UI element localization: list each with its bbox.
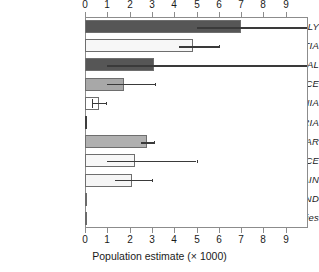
tick-label-top-1: 1	[100, 0, 114, 10]
tick-bottom-8	[263, 228, 264, 233]
tick-bottom-7	[241, 228, 242, 233]
x-axis-title: Population estimate (× 1000)	[0, 250, 319, 262]
error-bar-italy	[197, 27, 308, 29]
error-bar-france	[107, 161, 196, 162]
tick-top-0	[85, 12, 86, 17]
error-bar-albania	[92, 103, 106, 104]
tick-label-top-5: 5	[190, 0, 204, 10]
tick-bottom-5	[197, 228, 198, 233]
horizontal-bar-chart: ITALYCROATIAPORTUGALGREECEALBANIABULGARI…	[0, 0, 319, 272]
tick-label-bottom-0: 0	[78, 234, 92, 245]
tick-label-top-4: 4	[167, 0, 181, 10]
tick-top-4	[174, 12, 175, 17]
tick-label-top-3: 3	[145, 0, 159, 10]
tick-top-8	[263, 12, 264, 17]
tick-bottom-6	[219, 228, 220, 233]
error-cap-low-albania	[92, 99, 93, 108]
error-cap-high-croatia	[219, 45, 220, 48]
tick-label-bottom-3: 3	[145, 234, 159, 245]
tick-label-bottom-1: 1	[100, 234, 114, 245]
tick-top-2	[130, 12, 131, 17]
tick-label-bottom-7: 7	[234, 234, 248, 245]
tick-label-top-2: 2	[123, 0, 137, 10]
tick-top-5	[197, 12, 198, 17]
bar-bulgaria	[85, 116, 87, 129]
tick-bottom-3	[152, 228, 153, 233]
tick-bottom-2	[130, 228, 131, 233]
tick-label-top-9: 9	[279, 0, 293, 10]
error-cap-high-albania	[106, 102, 107, 105]
error-bar-portugal	[107, 65, 307, 67]
tick-top-6	[219, 12, 220, 17]
error-bar-greece	[107, 84, 155, 85]
tick-label-bottom-2: 2	[123, 234, 137, 245]
tick-label-bottom-4: 4	[167, 234, 181, 245]
tick-label-bottom-8: 8	[256, 234, 270, 245]
error-cap-high-spain	[152, 179, 153, 182]
error-cap-high-greece	[155, 83, 156, 86]
tick-label-top-7: 7	[234, 0, 248, 10]
tick-label-bottom-5: 5	[190, 234, 204, 245]
tick-top-7	[241, 12, 242, 17]
tick-bottom-1	[107, 228, 108, 233]
bar-croatia	[85, 39, 193, 52]
error-bar-croatia	[179, 46, 219, 48]
bar-switzerland	[85, 193, 87, 206]
tick-bottom-0	[85, 228, 86, 233]
tick-label-top-8: 8	[256, 0, 270, 10]
tick-top-9	[286, 12, 287, 17]
tick-label-bottom-6: 6	[212, 234, 226, 245]
bar-other-countries	[85, 212, 87, 225]
error-bar-gibraltar	[141, 142, 154, 144]
error-cap-high-france	[197, 160, 198, 163]
tick-top-1	[107, 12, 108, 17]
tick-label-top-6: 6	[212, 0, 226, 10]
tick-bottom-9	[286, 228, 287, 233]
tick-bottom-4	[174, 228, 175, 233]
tick-label-top-0: 0	[78, 0, 92, 10]
tick-top-3	[152, 12, 153, 17]
error-cap-high-gibraltar	[154, 141, 155, 144]
tick-label-bottom-9: 9	[279, 234, 293, 245]
bar-gibraltar	[85, 135, 147, 148]
error-bar-spain	[115, 180, 152, 181]
